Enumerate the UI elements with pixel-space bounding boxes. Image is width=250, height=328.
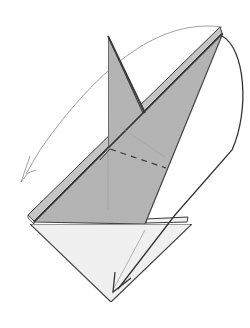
origami-diagram [0,0,250,328]
bottom-triangle [30,224,192,302]
layer-strip [146,217,188,223]
